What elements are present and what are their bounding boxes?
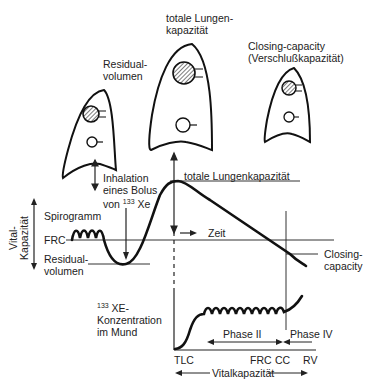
residual-lung-title: Residual- volumen <box>103 58 147 82</box>
tick-rv: RV <box>303 354 317 366</box>
vital-capacity-label: Vitalkapazität <box>212 367 274 379</box>
closing-capacity-label: Closing- capacity <box>324 248 363 272</box>
lung-total-capacity <box>149 44 212 150</box>
total-lung-title: totale Lungen- kapazität <box>166 12 233 36</box>
tlc-label: totale Lungenkapazität <box>184 170 290 182</box>
frc-label: FRC <box>44 234 66 246</box>
time-label: Zeit <box>208 227 226 239</box>
residual-bolus-arrow <box>92 160 98 190</box>
lung-closing-capacity <box>265 68 310 142</box>
tick-tlc: TLC <box>174 354 194 366</box>
tlc-arrow <box>171 153 177 233</box>
xe-concentration-label: 133 XE- Konzentration im Mund <box>97 300 162 338</box>
lung-residual-volume <box>63 90 116 178</box>
inhalation-label: Inhalation eines Bolus von 133 Xe <box>103 172 157 210</box>
residual-volume-label: Residual- volumen <box>44 253 88 277</box>
vital-capacity-axis-label: Vital- Kapazität <box>8 213 30 263</box>
tick-frc: FRC <box>250 354 272 366</box>
spirogramm-label: Spirogramm <box>44 210 101 222</box>
phase-4-label: Phase IV <box>290 328 333 340</box>
tick-cc: CC <box>275 354 290 366</box>
phase-2-label: Phase II <box>223 328 262 340</box>
closing-lung-title: Closing-capacity (Verschlußkapazität) <box>248 40 344 64</box>
